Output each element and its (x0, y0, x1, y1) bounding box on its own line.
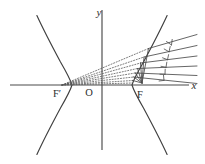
incident-ray-5 (135, 73, 197, 76)
left-focus-label: F′ (53, 88, 61, 99)
hyperbola-figure: y x O F′ F (0, 0, 205, 164)
incident-ray-4 (138, 66, 198, 69)
y-axis-label: y (96, 6, 102, 18)
virtual-rays-group (62, 49, 149, 86)
right-focus-label: F (137, 89, 143, 100)
origin-label: O (85, 87, 93, 98)
incident-ray-6 (134, 77, 197, 84)
incident-ray-5-arrow-icon (160, 69, 165, 74)
incident-ray-1 (149, 35, 198, 49)
x-axis-label: x (191, 79, 197, 91)
incident-ray-3-arrow-icon (163, 55, 169, 60)
incident-ray-3 (141, 56, 198, 63)
incident-ray-4-arrow-icon (161, 62, 167, 67)
virtual-ray-1 (62, 49, 149, 86)
incident-ray-2-arrow-icon (164, 47, 170, 52)
diagram-canvas: y x O F′ F (0, 0, 205, 164)
